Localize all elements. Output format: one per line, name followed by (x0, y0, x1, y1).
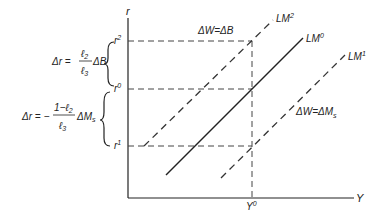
lm2-label: LM2 (276, 12, 294, 24)
lower-formula-numerator: 1−ℓ2 (54, 102, 73, 114)
r0-label: r0 (114, 82, 121, 94)
lm-shift-diagram: r Y LM2 LM0 LM1 ΔW=ΔB ΔW=ΔMs r2 r0 r1 Y0… (0, 0, 382, 223)
y-axis-label: r (126, 5, 131, 17)
upper-formula-lhs: Δr = (51, 56, 71, 67)
upper-formula-numerator: ℓ2 (80, 48, 88, 60)
lm0-label: LM0 (306, 32, 324, 44)
lower-brace (100, 92, 110, 146)
lm1-label: LM1 (348, 50, 366, 62)
lm0-curve (166, 38, 303, 175)
r1-label: r1 (114, 139, 121, 151)
shift-down-annotation: ΔW=ΔMs (295, 106, 337, 119)
upper-formula-tail: ΔB (92, 56, 107, 67)
lower-formula-denominator: ℓ3 (58, 120, 66, 132)
x-axis-label: Y (356, 192, 364, 204)
lower-formula-tail: ΔMs (76, 111, 96, 123)
r2-label: r2 (114, 34, 121, 46)
upper-formula-denominator: ℓ3 (80, 65, 88, 77)
y0-label: Y0 (246, 200, 257, 212)
lm2-curve (144, 20, 273, 146)
shift-up-annotation: ΔW=ΔB (197, 25, 234, 36)
lower-formula-lhs: Δr = − (21, 111, 49, 122)
